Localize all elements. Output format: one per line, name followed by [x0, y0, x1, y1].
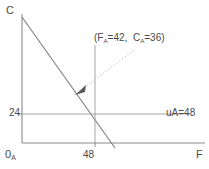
y-axis-label: C	[6, 5, 14, 16]
economics-diagram: C F 0A 24 48 uA=48 (FA=42, CA=36)	[0, 0, 209, 169]
utility-value: =48	[178, 107, 195, 118]
origin-label: 0A	[5, 149, 16, 160]
annotation-f-subscript: A	[103, 37, 107, 44]
leader-line	[84, 50, 134, 88]
annotation-f-value: =42,	[108, 32, 128, 43]
annotation-c-subscript: A	[140, 37, 144, 44]
utility-level-label: uA=48	[166, 108, 195, 118]
origin-label-subscript: A	[11, 154, 16, 161]
x-axis-label: F	[196, 149, 203, 160]
point-annotation-label: (FA=42, CA=36)	[94, 33, 165, 43]
diagram-canvas	[0, 0, 209, 169]
annotation-arrowhead	[75, 85, 86, 95]
annotation-c-value: =36)	[144, 32, 164, 43]
x-tick-label-48: 48	[83, 150, 94, 160]
y-tick-label-24: 24	[9, 108, 20, 118]
